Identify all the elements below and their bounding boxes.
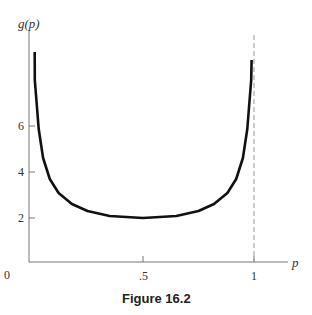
y-tick-label: 2: [18, 211, 24, 225]
x-axis-label: p: [291, 255, 299, 270]
figure-caption: Figure 16.2: [122, 291, 191, 306]
y-tick-label: 6: [18, 119, 24, 133]
y-ticks: 6 4 2: [18, 119, 35, 225]
g-curve: [35, 52, 252, 218]
y-axis-label: g(p): [18, 16, 40, 31]
y-tick-label: 4: [18, 165, 24, 179]
x-tick-label: 1: [251, 269, 257, 283]
chart: 6 4 2 .5 1 0 p g(p) Figure 16.2: [0, 0, 312, 315]
x-ticks: .5 1: [139, 256, 257, 283]
x-tick-label: .5: [139, 269, 148, 283]
origin-label: 0: [4, 268, 10, 282]
